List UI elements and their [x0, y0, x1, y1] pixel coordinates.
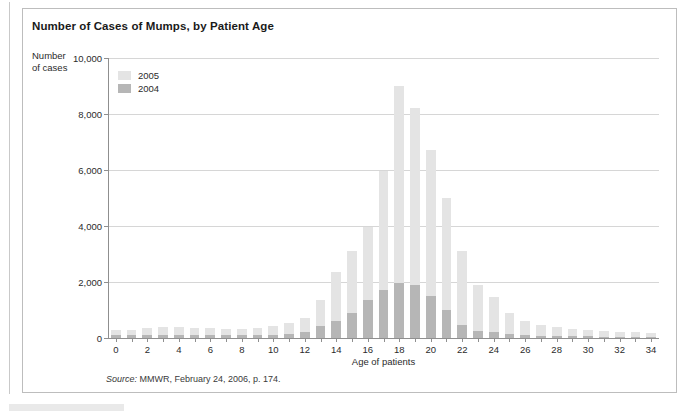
x-tick-mark: [431, 338, 432, 342]
legend-label-2005: 2005: [138, 70, 159, 81]
bar-group: [347, 58, 357, 338]
legend-label-2004: 2004: [138, 83, 159, 94]
x-tick-mark: [132, 338, 133, 342]
x-tick-mark: [179, 338, 180, 342]
y-tick-label: 4,000: [78, 221, 102, 232]
x-tick-label: 4: [176, 344, 181, 355]
page-margin-rule: [9, 2, 10, 394]
bar-segment-2004: [379, 290, 389, 338]
x-tick-mark: [635, 338, 636, 342]
x-tick-mark: [494, 338, 495, 342]
legend-item-2004: 2004: [118, 82, 159, 95]
bar-group: [631, 58, 641, 338]
x-tick-label: 0: [113, 344, 118, 355]
x-tick-mark: [258, 338, 259, 342]
x-tick-mark: [352, 338, 353, 342]
x-tick-label: 12: [299, 344, 310, 355]
bar-group: [190, 58, 200, 338]
source-note: Source: MMWR, February 24, 2006, p. 174.: [106, 374, 281, 384]
bar-group: [284, 58, 294, 338]
figure-page: Number of Cases of Mumps, by Patient Age…: [0, 0, 695, 417]
bar-group: [111, 58, 121, 338]
bar-group: [536, 58, 546, 338]
bar-segment-2004: [347, 313, 357, 338]
x-tick-mark: [210, 338, 211, 342]
legend-item-2005: 2005: [118, 69, 159, 82]
x-tick-label: 16: [362, 344, 373, 355]
bar-segment-2004: [457, 325, 467, 338]
source-text: MMWR, February 24, 2006, p. 174.: [137, 374, 281, 384]
bar-group: [505, 58, 515, 338]
x-tick-label: 6: [208, 344, 213, 355]
bar-group: [646, 58, 656, 338]
y-tick-label: 6,000: [78, 165, 102, 176]
bar-group: [174, 58, 184, 338]
bar-group: [410, 58, 420, 338]
bar-group: [237, 58, 247, 338]
bar-group: [426, 58, 436, 338]
y-tick-label: 8,000: [78, 109, 102, 120]
x-tick-label: 2: [145, 344, 150, 355]
x-tick-mark: [446, 338, 447, 342]
y-tick-label: 2,000: [78, 277, 102, 288]
x-tick-label: 18: [394, 344, 405, 355]
bar-segment-2004: [394, 283, 404, 338]
x-tick-mark: [305, 338, 306, 342]
x-tick-mark: [399, 338, 400, 342]
figure-title: Number of Cases of Mumps, by Patient Age: [32, 20, 274, 32]
x-tick-mark: [620, 338, 621, 342]
x-tick-mark: [384, 338, 385, 342]
x-tick-mark: [651, 338, 652, 342]
bar-group: [583, 58, 593, 338]
x-tick-mark: [478, 338, 479, 342]
x-tick-mark: [462, 338, 463, 342]
x-tick-mark: [321, 338, 322, 342]
x-tick-mark: [289, 338, 290, 342]
x-tick-mark: [368, 338, 369, 342]
bar-group: [268, 58, 278, 338]
x-tick-mark: [226, 338, 227, 342]
plot-area: 02,0004,0006,0008,00010,000 024681012141…: [108, 58, 659, 338]
bar-segment-2004: [473, 331, 483, 338]
bar-group: [615, 58, 625, 338]
x-tick-label: 30: [583, 344, 594, 355]
x-tick-label: 20: [425, 344, 436, 355]
bar-group: [253, 58, 263, 338]
bar-group: [127, 58, 137, 338]
x-tick-mark: [604, 338, 605, 342]
x-tick-mark: [116, 338, 117, 342]
bar-segment-2004: [426, 296, 436, 338]
bar-group: [316, 58, 326, 338]
bar-segment-2004: [410, 285, 420, 338]
bar-group: [394, 58, 404, 338]
page-bottom-fragment: [9, 404, 124, 411]
x-axis-title: Age of patients: [108, 356, 659, 367]
x-tick-label: 22: [457, 344, 468, 355]
bar-segment-2004: [331, 321, 341, 338]
bar-segment-2004: [442, 310, 452, 338]
bar-group: [442, 58, 452, 338]
legend: 2005 2004: [118, 69, 159, 95]
x-tick-mark: [541, 338, 542, 342]
x-tick-mark: [242, 338, 243, 342]
x-tick-label: 26: [520, 344, 531, 355]
x-tick-mark: [572, 338, 573, 342]
bar-group: [568, 58, 578, 338]
bar-group: [457, 58, 467, 338]
bar-group: [300, 58, 310, 338]
bars-layer: [108, 58, 659, 338]
x-tick-mark: [557, 338, 558, 342]
bar-group: [379, 58, 389, 338]
bar-group: [142, 58, 152, 338]
x-tick-label: 28: [551, 344, 562, 355]
x-tick-label: 32: [614, 344, 625, 355]
x-tick-mark: [163, 338, 164, 342]
x-tick-label: 24: [488, 344, 499, 355]
bar-group: [158, 58, 168, 338]
legend-swatch-2005: [118, 71, 131, 80]
x-tick-mark: [588, 338, 589, 342]
y-tick-label: 0: [97, 333, 102, 344]
y-tick-label: 10,000: [73, 53, 102, 64]
x-tick-label: 34: [646, 344, 657, 355]
bar-group: [520, 58, 530, 338]
